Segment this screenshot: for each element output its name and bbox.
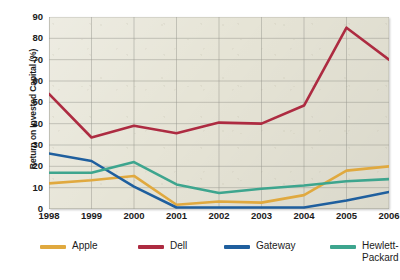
- legend-item[interactable]: Gateway: [224, 240, 295, 252]
- x-tick-label: 1998: [38, 211, 59, 221]
- x-axis-tick-labels: 199819992000200120022003200420052006: [49, 211, 389, 227]
- legend-swatch-icon: [40, 245, 66, 249]
- y-tick-label: 20: [32, 162, 43, 172]
- series-line-dell: [49, 28, 389, 138]
- legend-swatch-icon: [330, 245, 356, 249]
- x-tick-label: 2006: [378, 211, 399, 221]
- legend-label: Gateway: [256, 240, 295, 252]
- legend-label: Dell: [170, 240, 187, 252]
- x-tick-label: 2005: [336, 211, 357, 221]
- chart-legend: AppleDellGatewayHewlett- Packard: [40, 240, 400, 278]
- legend-label: Apple: [72, 240, 98, 252]
- x-tick-label: 2000: [123, 211, 144, 221]
- legend-swatch-icon: [138, 245, 164, 249]
- y-tick-label: 60: [32, 76, 43, 86]
- legend-item[interactable]: Apple: [40, 240, 98, 252]
- x-tick-label: 2001: [166, 211, 187, 221]
- y-tick-label: 30: [32, 140, 43, 150]
- x-tick-label: 2002: [208, 211, 229, 221]
- roic-line-chart: Return on Invested Capital (%) 010203040…: [0, 0, 400, 280]
- legend-item[interactable]: Dell: [138, 240, 187, 252]
- x-tick-label: 2004: [293, 211, 314, 221]
- y-tick-label: 40: [32, 119, 43, 129]
- y-tick-label: 50: [32, 98, 43, 108]
- legend-swatch-icon: [224, 245, 250, 249]
- y-axis-tick-labels: 0102030405060708090: [0, 0, 46, 215]
- y-tick-label: 90: [32, 12, 43, 22]
- legend-label: Hewlett- Packard: [362, 240, 399, 264]
- y-tick-label: 80: [32, 34, 43, 44]
- x-tick-label: 1999: [81, 211, 102, 221]
- x-tick-label: 2003: [251, 211, 272, 221]
- y-tick-label: 10: [32, 183, 43, 193]
- legend-item[interactable]: Hewlett- Packard: [330, 240, 399, 264]
- series-line-apple: [49, 166, 389, 204]
- plot-area: [49, 17, 389, 209]
- y-tick-label: 70: [32, 55, 43, 65]
- series-lines: [49, 17, 389, 209]
